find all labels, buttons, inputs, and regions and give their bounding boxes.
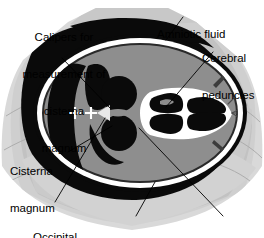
label-occipital-bone: Occipital bone bbox=[24, 206, 86, 238]
label-cerebral-peduncles: Cerebral peduncles bbox=[202, 27, 264, 126]
label-occipital-bone-line-1: Occipital bbox=[24, 231, 86, 238]
label-cerebral-peduncles-line-1: Cerebral bbox=[202, 52, 264, 64]
label-calipers-line-1: Calipers for bbox=[4, 31, 124, 43]
label-cerebellum: Cerebellum bbox=[191, 221, 257, 238]
label-calipers-line-2: measurement of bbox=[4, 68, 124, 80]
label-calipers-line-3: cisterna bbox=[4, 105, 124, 117]
label-cerebral-peduncles-line-2: peduncles bbox=[202, 89, 264, 101]
label-cisterna-magnum-line-1: Cisterna bbox=[10, 165, 70, 177]
label-placenta: Placenta bbox=[110, 221, 162, 238]
ultrasound-figure: Calipers for measurement of cisterna mag… bbox=[0, 0, 264, 238]
